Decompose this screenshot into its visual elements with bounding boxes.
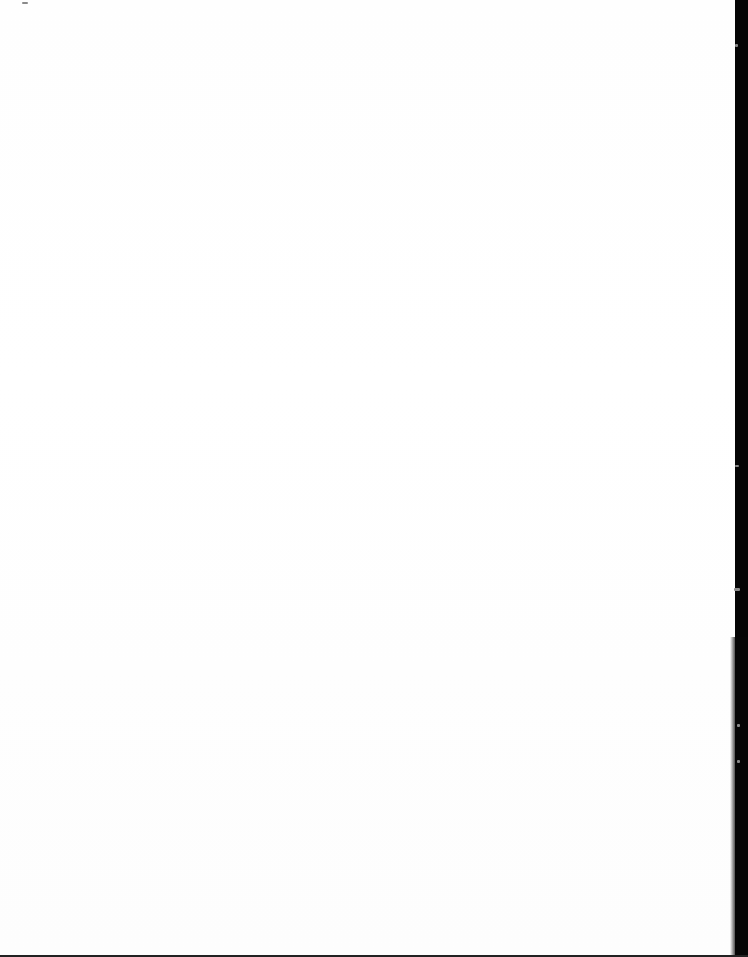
scan-speck	[737, 724, 740, 727]
scanner-edge-shadow	[730, 637, 748, 957]
blank-paper-area: blank scanned page	[0, 0, 736, 955]
scan-speck	[735, 44, 738, 47]
scan-speck	[737, 760, 740, 763]
scan-speck	[735, 465, 739, 467]
scanned-page: blank scanned page	[0, 0, 748, 957]
scan-speck	[734, 588, 740, 591]
scan-speck	[22, 2, 28, 4]
